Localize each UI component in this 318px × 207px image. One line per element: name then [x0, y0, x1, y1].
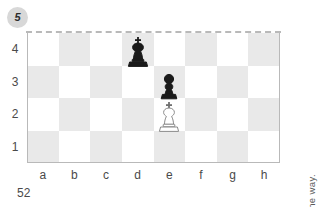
clue-text: CLUE: Try blocking the way.	[306, 174, 317, 207]
page-number: 52	[17, 186, 30, 200]
board-square-e4[interactable]	[154, 33, 186, 66]
board-square-f1[interactable]	[185, 131, 217, 164]
file-label-c: c	[97, 168, 115, 182]
board-square-a2[interactable]	[27, 98, 59, 131]
board-square-h1[interactable]	[248, 131, 280, 164]
file-label-a: a	[34, 168, 52, 182]
chessboard-grid	[27, 33, 280, 163]
board-square-d4[interactable]	[122, 33, 154, 66]
board-square-a4[interactable]	[27, 33, 59, 66]
file-label-b: b	[65, 168, 83, 182]
board-square-g1[interactable]	[217, 131, 249, 164]
chessboard[interactable]	[27, 33, 280, 163]
board-square-d1[interactable]	[122, 131, 154, 164]
board-square-a1[interactable]	[27, 131, 59, 164]
file-label-h: h	[255, 168, 273, 182]
board-square-b4[interactable]	[59, 33, 91, 66]
board-square-f2[interactable]	[185, 98, 217, 131]
board-square-a3[interactable]	[27, 66, 59, 99]
board-square-g4[interactable]	[217, 33, 249, 66]
board-square-g3[interactable]	[217, 66, 249, 99]
rank-label-4: 4	[8, 42, 22, 56]
rank-label-2: 2	[8, 107, 22, 121]
board-square-g2[interactable]	[217, 98, 249, 131]
board-square-c4[interactable]	[90, 33, 122, 66]
board-square-b2[interactable]	[59, 98, 91, 131]
file-label-f: f	[192, 168, 210, 182]
board-square-e1[interactable]	[154, 131, 186, 164]
board-square-d3[interactable]	[122, 66, 154, 99]
board-square-c2[interactable]	[90, 98, 122, 131]
board-square-e3[interactable]	[154, 66, 186, 99]
puzzle-number-label: 5	[14, 12, 20, 23]
board-square-b3[interactable]	[59, 66, 91, 99]
board-square-h4[interactable]	[248, 33, 280, 66]
board-square-b1[interactable]	[59, 131, 91, 164]
file-label-d: d	[129, 168, 147, 182]
file-label-e: e	[160, 168, 178, 182]
rank-label-1: 1	[8, 140, 22, 154]
board-square-c1[interactable]	[90, 131, 122, 164]
board-square-f4[interactable]	[185, 33, 217, 66]
board-square-h2[interactable]	[248, 98, 280, 131]
board-square-d2[interactable]	[122, 98, 154, 131]
board-square-f3[interactable]	[185, 66, 217, 99]
puzzle-number-badge: 5	[7, 7, 28, 28]
board-square-h3[interactable]	[248, 66, 280, 99]
board-square-e2[interactable]	[154, 98, 186, 131]
board-square-c3[interactable]	[90, 66, 122, 99]
rank-label-3: 3	[8, 75, 22, 89]
file-label-g: g	[224, 168, 242, 182]
